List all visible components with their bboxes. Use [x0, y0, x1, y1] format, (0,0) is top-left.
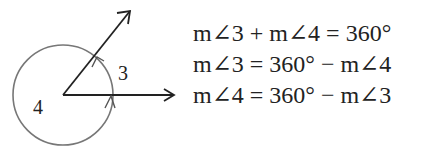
equation-2: m∠3 = 360° − m∠4: [193, 49, 391, 80]
angle-4-label: 4: [33, 96, 43, 118]
equations: m∠3 + m∠4 = 360° m∠3 = 360° − m∠4 m∠4 = …: [193, 18, 391, 111]
angle-3-label: 3: [118, 62, 128, 84]
equation-1: m∠3 + m∠4 = 360°: [193, 18, 391, 49]
equation-3: m∠4 = 360° − m∠3: [193, 80, 391, 111]
angle-diagram: 3 4: [0, 0, 190, 154]
